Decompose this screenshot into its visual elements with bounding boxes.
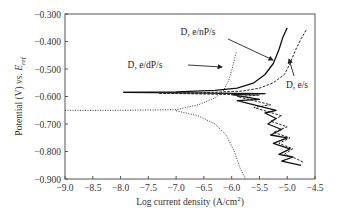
- y-tick-label: −0.400: [34, 37, 61, 47]
- series-d--e-dp-s-cathodic: [176, 111, 246, 179]
- y-tick-label: −0.700: [34, 120, 61, 130]
- x-tick-label: −9.0: [56, 183, 73, 193]
- annotations-group: D, e/nP/sD, e/dP/sD, e/s: [128, 27, 309, 90]
- x-tick-label: −5.0: [279, 183, 296, 193]
- annotation-arrow: [228, 39, 273, 60]
- series-d--e-np-s-cathodic_sawtooth: [123, 92, 301, 165]
- y-tick-label: −0.500: [34, 65, 61, 75]
- y-tick-label: −0.600: [34, 92, 61, 102]
- x-tick-label: −8.0: [112, 183, 129, 193]
- annotation-arrow: [188, 65, 222, 67]
- x-tick-label: −5.5: [251, 183, 268, 193]
- x-tick-label: −4.5: [306, 183, 323, 193]
- annotation-arrow: [289, 59, 294, 76]
- plot-frame: [65, 14, 315, 179]
- series-d--e-s-anodic: [159, 29, 306, 93]
- x-tick-label: −6.5: [195, 183, 212, 193]
- polarization-chart: −9.0−8.5−8.0−7.5−7.0−6.5−6.0−5.5−5.0−4.5…: [0, 0, 338, 220]
- axes: −9.0−8.5−8.0−7.5−7.0−6.5−6.0−5.5−5.0−4.5…: [34, 10, 324, 194]
- x-tick-label: −6.0: [223, 183, 240, 193]
- x-tick-label: −7.5: [140, 183, 157, 193]
- annotation-label: D, e/s: [286, 80, 308, 90]
- annotation-label: D, e/nP/s: [181, 27, 216, 37]
- x-axis-label: Log current density (A/cm2): [136, 195, 244, 208]
- y-tick-label: −0.300: [34, 10, 61, 20]
- x-tick-label: −8.5: [84, 183, 101, 193]
- y-tick-label: −0.800: [34, 147, 61, 157]
- y-tick-label: −0.900: [34, 175, 61, 185]
- annotation-label: D, e/dP/s: [128, 60, 163, 70]
- series-group: [65, 28, 307, 179]
- y-axis-label: Potential (V) vs. Eref: [14, 56, 27, 135]
- x-tick-label: −7.0: [167, 183, 184, 193]
